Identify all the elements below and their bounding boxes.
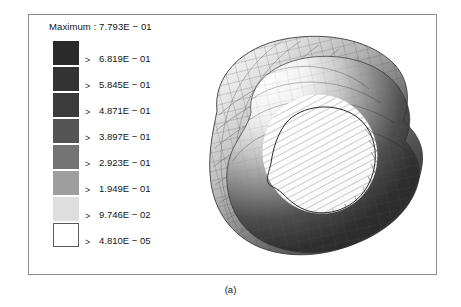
legend-comparator: > bbox=[85, 185, 90, 195]
legend-value-label: 6.819E − 01 bbox=[99, 53, 151, 64]
legend-color-swatch bbox=[53, 223, 79, 247]
legend-value-label: 1.949E − 01 bbox=[99, 183, 151, 194]
legend-value-label: 4.810E − 05 bbox=[99, 235, 151, 246]
legend-comparator: > bbox=[85, 81, 90, 91]
legend-color-swatch bbox=[53, 119, 79, 143]
legend-comparator: > bbox=[85, 237, 90, 247]
legend-comparator: > bbox=[85, 107, 90, 117]
legend-value-label: 5.845E − 01 bbox=[99, 79, 151, 90]
legend-color-swatch bbox=[53, 171, 79, 195]
legend-comparator: > bbox=[85, 133, 90, 143]
figure-frame: Maximum : 7.793E − 01 > 6.819E − 01 > 5.… bbox=[28, 14, 437, 275]
legend-comparator: > bbox=[85, 159, 90, 169]
legend-color-swatch bbox=[53, 197, 79, 221]
legend-value-label: 4.871E − 01 bbox=[99, 105, 151, 116]
legend-value-label: 2.923E − 01 bbox=[99, 157, 151, 168]
contour-plot-3d bbox=[189, 19, 437, 272]
legend-color-swatch bbox=[53, 145, 79, 169]
legend-value-label: 9.746E − 02 bbox=[99, 209, 151, 220]
legend-color-swatch bbox=[53, 67, 79, 91]
legend-color-swatch bbox=[53, 93, 79, 117]
figure-caption: (a) bbox=[0, 284, 461, 295]
legend-comparator: > bbox=[85, 55, 90, 65]
legend-value-label: 3.897E − 01 bbox=[99, 131, 151, 142]
legend-color-swatch bbox=[53, 41, 79, 65]
contour-plot-svg bbox=[189, 19, 437, 272]
legend-comparator: > bbox=[85, 211, 90, 221]
